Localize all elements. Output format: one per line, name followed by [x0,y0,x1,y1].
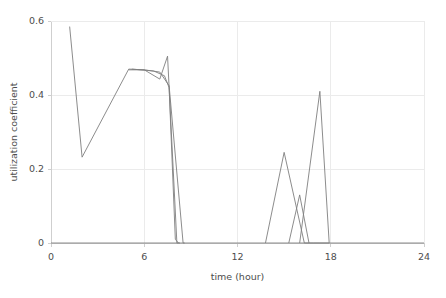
chart-container: 00.20.40.6 06121824 time (hour) utilizat… [0,0,446,298]
x-tick-label-0: 0 [48,251,54,262]
gridlines-group [51,21,424,243]
y-axis-title: utilization coefficient [8,82,19,181]
y-tick-label-1: 0.2 [29,163,44,174]
x-tick-label-4: 24 [418,251,430,262]
x-axis-title: time (hour) [211,271,265,282]
data-line-series-2 [129,56,180,243]
y-tick-label-3: 0.6 [29,15,44,26]
y-tick-label-0: 0 [38,237,44,248]
line-chart: 00.20.40.6 06121824 time (hour) utilizat… [0,0,446,298]
x-tick-labels-group: 06121824 [48,251,430,262]
x-tick-label-3: 18 [325,251,337,262]
data-line-series-4 [265,152,329,243]
data-line-series-6 [300,91,330,243]
tick-marks-group [48,21,425,247]
y-tick-labels-group: 00.20.40.6 [29,15,44,248]
y-tick-label-2: 0.4 [29,89,44,100]
x-tick-label-1: 6 [141,251,147,262]
x-tick-label-2: 12 [231,251,243,262]
